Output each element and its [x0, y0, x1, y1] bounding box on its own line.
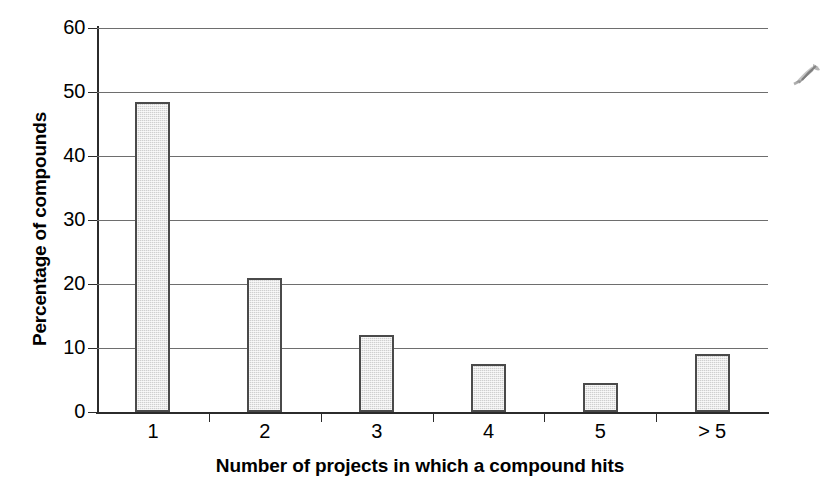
y-axis-tick — [88, 156, 97, 157]
gridline — [97, 348, 768, 349]
x-axis-tick — [656, 413, 657, 422]
bar — [247, 278, 282, 412]
x-axis-tick-label: > 5 — [682, 420, 742, 442]
y-axis-tick-label: 40 — [39, 145, 85, 165]
y-axis-tick — [88, 284, 97, 285]
x-axis-tick-label: 1 — [123, 420, 183, 442]
y-axis-tick — [88, 348, 97, 349]
gridline — [97, 156, 768, 157]
y-axis-tick-label: 20 — [39, 273, 85, 293]
x-axis-tick — [433, 413, 434, 422]
x-axis-tick-label: 5 — [570, 420, 630, 442]
y-axis-tick — [88, 220, 97, 221]
gridline — [97, 220, 768, 221]
bar-chart-figure: Percentage of compounds 0102030405060 12… — [0, 0, 840, 492]
y-axis-tick-label: 10 — [39, 337, 85, 357]
x-axis-tick-label: 2 — [235, 420, 295, 442]
y-axis-tick-label: 30 — [39, 209, 85, 229]
x-axis-title: Number of projects in which a compound h… — [60, 455, 780, 477]
y-axis-tick-label: 60 — [39, 17, 85, 37]
gridline — [97, 92, 768, 93]
scan-artifact-icon — [790, 60, 824, 90]
x-axis-tick-label: 3 — [347, 420, 407, 442]
y-axis-tick-label: 50 — [39, 81, 85, 101]
y-axis-tick — [88, 92, 97, 93]
x-axis-tick-label: 4 — [458, 420, 518, 442]
bar — [359, 335, 394, 412]
bar — [695, 354, 730, 412]
x-axis-tick — [544, 413, 545, 422]
y-axis-tick-label: 0 — [39, 401, 85, 421]
bar — [583, 383, 618, 412]
bar — [471, 364, 506, 412]
y-axis-tick — [88, 412, 97, 413]
x-axis-tick — [321, 413, 322, 422]
gridline — [97, 28, 768, 29]
y-axis-tick — [88, 28, 97, 29]
gridline — [97, 284, 768, 285]
plot-area — [97, 28, 768, 412]
x-axis-tick — [209, 413, 210, 422]
bar — [135, 102, 170, 412]
